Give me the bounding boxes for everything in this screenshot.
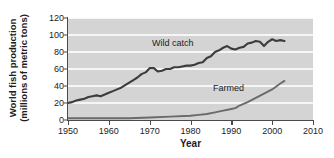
y-tick-mark bbox=[64, 35, 68, 36]
y-tick-label: 0 bbox=[36, 116, 64, 125]
y-tick-label: 120 bbox=[36, 14, 64, 23]
x-axis-title: Year bbox=[68, 138, 313, 149]
y-tick-label: 100 bbox=[36, 31, 64, 40]
fish-production-chart: World fish production (millions of metri… bbox=[0, 0, 334, 158]
y-axis-title-line1: World fish production bbox=[7, 14, 18, 122]
y-tick-mark bbox=[64, 86, 68, 87]
x-tick-mark bbox=[272, 121, 273, 125]
series-label-farmed: Farmed bbox=[213, 83, 244, 93]
x-tick-mark bbox=[191, 121, 192, 125]
y-tick-mark bbox=[64, 52, 68, 53]
series-curves bbox=[68, 18, 313, 120]
x-tick-label: 2010 bbox=[303, 126, 323, 136]
x-tick-mark bbox=[109, 121, 110, 125]
x-tick-label: 1980 bbox=[180, 126, 200, 136]
y-tick-mark bbox=[64, 103, 68, 104]
y-axis-tick-labels: 020406080100120 bbox=[36, 18, 64, 120]
x-tick-label: 1960 bbox=[99, 126, 119, 136]
x-tick-label: 1970 bbox=[140, 126, 160, 136]
series-line-wild-catch bbox=[68, 39, 284, 103]
x-tick-label: 1950 bbox=[58, 126, 78, 136]
y-tick-label: 60 bbox=[36, 65, 64, 74]
y-tick-mark bbox=[64, 18, 68, 19]
y-tick-label: 80 bbox=[36, 48, 64, 57]
series-label-wild-catch: Wild catch bbox=[152, 38, 194, 48]
series-line-farmed bbox=[68, 81, 284, 118]
x-tick-label: 1990 bbox=[221, 126, 241, 136]
y-tick-mark bbox=[64, 69, 68, 70]
y-axis-title: World fish production (millions of metri… bbox=[0, 0, 38, 135]
plot-area bbox=[68, 18, 313, 120]
y-axis-title-line2: (millions of metric tons) bbox=[18, 14, 29, 122]
x-tick-mark bbox=[68, 121, 69, 125]
y-tick-label: 40 bbox=[36, 82, 64, 91]
y-tick-label: 20 bbox=[36, 99, 64, 108]
x-tick-label: 2000 bbox=[262, 126, 282, 136]
x-tick-mark bbox=[313, 121, 314, 125]
x-tick-mark bbox=[231, 121, 232, 125]
x-tick-mark bbox=[150, 121, 151, 125]
